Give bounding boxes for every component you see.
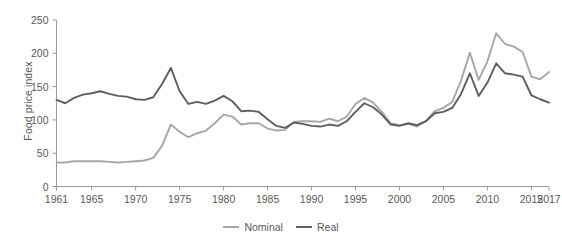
x-tick-label: 2005	[432, 193, 456, 205]
x-tick-label: 1961	[45, 193, 69, 205]
legend-item-nominal: Nominal	[223, 221, 283, 233]
x-tick-label: 1985	[256, 193, 280, 205]
food-price-index-chart: Food price index 050100150200250 1961196…	[0, 0, 562, 245]
x-tick-label: 2010	[476, 193, 500, 205]
series-line-real	[57, 63, 550, 128]
y-tick-label: 50	[37, 147, 49, 159]
x-tick-label: 1980	[212, 193, 236, 205]
y-tick-label: 100	[31, 114, 49, 126]
chart-legend: Nominal Real	[0, 221, 562, 233]
x-tick-label: 2000	[388, 193, 412, 205]
x-tick-label: 2017	[537, 193, 561, 205]
legend-swatch-real	[296, 226, 312, 228]
x-axis: 1961196519701975198019851990199520002005…	[45, 187, 561, 205]
y-axis: 050100150200250	[31, 14, 57, 193]
y-tick-label: 250	[31, 14, 49, 26]
legend-label-nominal: Nominal	[244, 221, 283, 233]
legend-swatch-nominal	[223, 226, 239, 228]
legend-label-real: Real	[317, 221, 339, 233]
y-tick-label: 150	[31, 81, 49, 93]
legend-item-real: Real	[296, 221, 339, 233]
chart-plot-area: 050100150200250 196119651970197519801985…	[0, 0, 562, 245]
x-tick-label: 1975	[168, 193, 192, 205]
x-tick-label: 1965	[80, 193, 104, 205]
x-tick-label: 1990	[300, 193, 324, 205]
data-series-group	[57, 33, 550, 162]
y-tick-label: 0	[43, 181, 49, 193]
x-tick-label: 1970	[124, 193, 148, 205]
y-tick-label: 200	[31, 47, 49, 59]
x-tick-label: 1995	[344, 193, 368, 205]
